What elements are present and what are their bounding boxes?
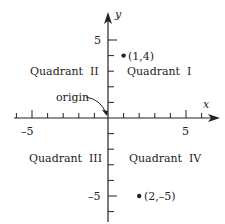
y-axis-label: y	[114, 8, 122, 21]
y-ticks	[108, 40, 117, 212]
coordinate-plane: y x –5 5 5 –5 Quadrant I Quadrant II Qua…	[0, 0, 225, 224]
origin-label: origin	[56, 91, 89, 104]
origin-arrow-head-icon	[102, 110, 108, 116]
tick-label-y-5: 5	[94, 34, 101, 47]
x-ticks	[16, 110, 201, 118]
point-1-4-label: (1,4)	[128, 50, 154, 63]
tick-label-x-neg5: –5	[21, 125, 34, 138]
quadrant-2-label: Quadrant II	[30, 65, 99, 78]
quadrant-1-label: Quadrant I	[127, 65, 191, 78]
point-2-neg5	[137, 194, 141, 198]
tick-label-y-neg5: –5	[88, 190, 101, 203]
quadrant-3-label: Quadrant III	[29, 152, 102, 165]
quadrant-4-label: Quadrant IV	[129, 152, 202, 165]
point-2-neg5-label: (2,–5)	[144, 190, 176, 203]
tick-label-x-5: 5	[182, 125, 189, 138]
x-axis-label: x	[203, 98, 210, 111]
point-1-4	[121, 53, 125, 57]
